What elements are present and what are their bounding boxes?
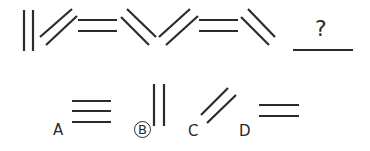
option-a-figure-three-horizontal-lines[interactable] bbox=[72, 101, 111, 122]
option-a-label[interactable]: A bbox=[53, 123, 63, 138]
sequence-figure-7-back-slashes bbox=[241, 9, 275, 45]
option-b-figure-two-vertical-lines[interactable] bbox=[154, 84, 164, 126]
option-b-label-selected[interactable]: B bbox=[134, 121, 151, 138]
sequence-figure-3-horizontal-lines bbox=[78, 20, 117, 31]
sequence-figure-1-vertical-lines bbox=[24, 10, 33, 51]
sequence-figure-4-back-slashes bbox=[121, 9, 156, 45]
option-b-label-text: B bbox=[138, 122, 147, 137]
question-mark: ? bbox=[315, 18, 327, 40]
sequence-figure-5-forward-slashes bbox=[159, 9, 198, 45]
option-c-figure-forward-slashes[interactable] bbox=[201, 88, 236, 123]
sequence-figure-2-forward-slashes bbox=[40, 9, 77, 45]
option-d-label[interactable]: D bbox=[239, 124, 251, 139]
option-d-figure-two-horizontal-lines[interactable] bbox=[259, 105, 299, 116]
option-c-label[interactable]: C bbox=[188, 124, 198, 139]
sequence-figure-6-horizontal-lines bbox=[199, 20, 238, 31]
